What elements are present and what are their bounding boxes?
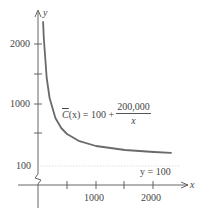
- formula-c-bar: C: [62, 109, 69, 120]
- y-tick-label-100: 100: [16, 161, 31, 171]
- y-axis-label: y: [43, 8, 47, 18]
- function-formula: C (x) = 100 + 200,000 x: [62, 102, 151, 126]
- formula-denominator: x: [131, 114, 135, 126]
- formula-numerator: 200,000: [116, 102, 151, 114]
- x-tick-label-2000: 2000: [141, 193, 161, 203]
- x-axis: [18, 181, 188, 189]
- x-tick-label-1000: 1000: [84, 193, 104, 203]
- formula-middle: (x) = 100 +: [69, 109, 114, 120]
- y-axis: [34, 10, 42, 208]
- y-tick-label-2000: 2000: [10, 39, 30, 49]
- x-axis-label: x: [190, 180, 194, 190]
- asymptote-label: y = 100: [140, 167, 171, 177]
- formula-fraction: 200,000 x: [116, 102, 151, 126]
- y-tick-label-1000: 1000: [10, 99, 30, 109]
- cost-curve: [43, 22, 171, 153]
